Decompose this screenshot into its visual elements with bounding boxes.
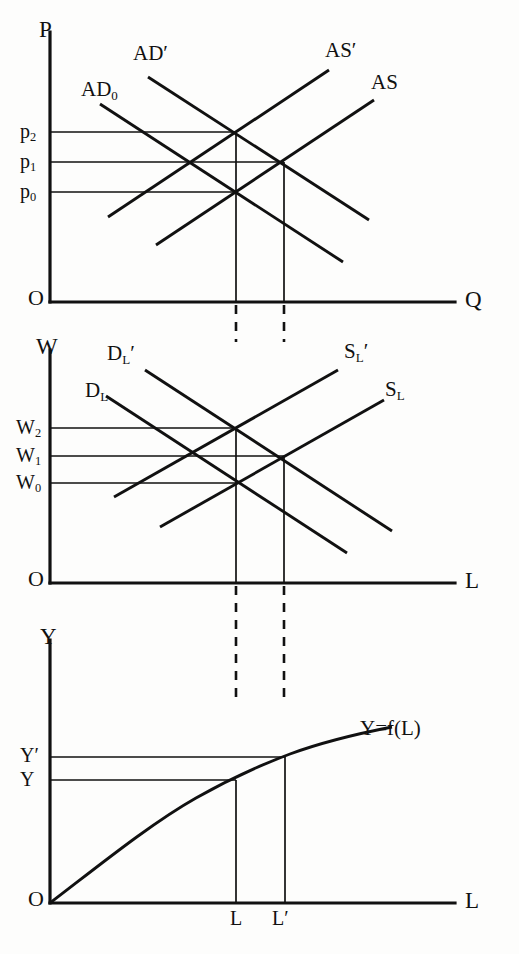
curve-sl — [160, 400, 384, 527]
curve-label-ad0: AD0 — [81, 79, 118, 100]
curve-label-as-prime: AS′ — [325, 40, 357, 61]
tick-label-w2: W2 — [16, 417, 41, 437]
origin-label-labour: O — [28, 568, 44, 590]
curve-label-as: AS — [371, 72, 398, 93]
axis-label-w: W — [36, 335, 58, 358]
axis-label-p: P — [39, 18, 52, 41]
tick-label-p0: p0 — [20, 181, 36, 201]
curve-dl — [106, 396, 347, 553]
curve-dl-prime — [145, 370, 392, 531]
origin-label-production: O — [28, 888, 44, 910]
curve-sl-prime — [114, 370, 338, 497]
origin-label-ad-as: O — [28, 287, 44, 309]
axis-label-l-middle: L — [465, 569, 479, 592]
curve-ad-prime — [148, 77, 369, 220]
tick-label-y-prime: Y′ — [20, 745, 39, 765]
curve-production-function — [50, 727, 392, 903]
curve-label-sl-prime: SL′ — [344, 341, 369, 362]
figure-canvas: P Q O p2 p1 p0 AD0 AD′ AS′ AS W L O W2 W… — [0, 0, 519, 954]
tick-label-l-prime: L′ — [272, 908, 289, 928]
tick-label-p1: p1 — [20, 151, 36, 171]
tick-label-p2: p2 — [20, 121, 36, 141]
panel-production-function — [50, 640, 455, 903]
axis-label-q: Q — [465, 288, 482, 311]
axis-label-l-bottom: L — [465, 889, 479, 912]
curve-label-dl-prime: DL′ — [107, 343, 135, 364]
tick-label-w1: W1 — [16, 445, 41, 465]
diagram-svg — [0, 0, 519, 954]
curve-label-dl: DL — [85, 380, 108, 401]
axis-label-y: Y — [40, 625, 57, 648]
curve-ad0 — [100, 104, 343, 262]
curve-label-production-function: Y=f(L) — [360, 718, 421, 739]
curve-as — [156, 100, 374, 245]
curve-label-ad-prime: AD′ — [133, 43, 168, 64]
tick-label-w0: W0 — [16, 472, 41, 492]
curve-as-prime — [108, 70, 329, 217]
tick-label-y: Y — [20, 769, 34, 789]
tick-label-l: L — [230, 908, 242, 928]
curve-label-sl: SL — [385, 379, 405, 400]
